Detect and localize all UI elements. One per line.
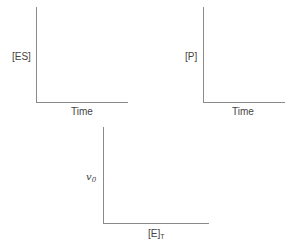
y-axis-label-subscript: 0 <box>92 176 96 184</box>
y-axis-label: v0 <box>86 172 96 182</box>
x-axis <box>103 223 209 224</box>
y-axis <box>103 127 104 224</box>
x-axis-label: [E]T <box>148 229 165 239</box>
v0-vs-enzyme-plot: v0 [E]T <box>0 0 298 251</box>
x-axis-label-main: [E] <box>148 228 160 239</box>
x-axis-label-subscript: T <box>160 233 164 240</box>
